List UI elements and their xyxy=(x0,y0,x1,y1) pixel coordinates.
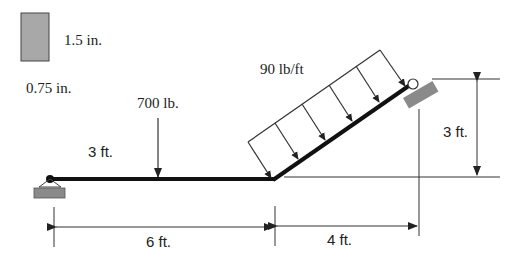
point-load-label: 700 lb. xyxy=(137,95,179,111)
distributed-load-label: 90 lb/ft xyxy=(260,61,305,77)
section-height-label: 1.5 in. xyxy=(64,32,102,48)
horizontal-span-label: 6 ft. xyxy=(146,233,171,250)
beam-diagram: 1.5 in. 0.75 in. 700 lb. 90 lb/ft 3 ft. … xyxy=(0,0,515,263)
inclined-rise-label: 3 ft. xyxy=(443,123,468,140)
load-position-label: 3 ft. xyxy=(88,143,113,160)
inclined-run-label: 4 ft. xyxy=(327,231,352,248)
roller-support-right xyxy=(403,79,438,108)
section-width-label: 0.75 in. xyxy=(26,80,71,96)
cross-section xyxy=(21,13,49,61)
cross-section-rect xyxy=(21,13,49,61)
inclined-beam xyxy=(273,85,410,180)
